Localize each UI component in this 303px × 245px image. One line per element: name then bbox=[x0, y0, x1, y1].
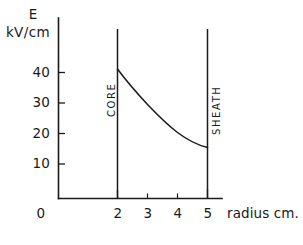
electric-stress-chart: E kV/cm 40 30 20 10 0 2 3 4 5 radius cm.… bbox=[0, 0, 303, 245]
y-axis-symbol: E bbox=[12, 6, 54, 22]
sheath-annotation-label: SHEATH bbox=[211, 86, 222, 135]
x-axis-title: radius cm. bbox=[227, 205, 299, 221]
y-tick-label-40: 40 bbox=[18, 65, 50, 81]
y-axis-unit: kV/cm bbox=[2, 24, 54, 40]
core-annotation-label: CORE bbox=[106, 82, 117, 117]
y-axis-title: E kV/cm bbox=[2, 6, 54, 40]
y-tick-label-20: 20 bbox=[18, 126, 50, 142]
x-tick-label-2: 2 bbox=[108, 206, 128, 222]
y-tick-label-10: 10 bbox=[18, 156, 50, 172]
x-tick-label-0: 0 bbox=[31, 206, 51, 222]
y-tick-label-30: 30 bbox=[18, 95, 50, 111]
x-tick-label-4: 4 bbox=[168, 206, 188, 222]
x-tick-label-5: 5 bbox=[198, 206, 218, 222]
stress-curve bbox=[118, 69, 208, 148]
x-tick-label-3: 3 bbox=[138, 206, 158, 222]
